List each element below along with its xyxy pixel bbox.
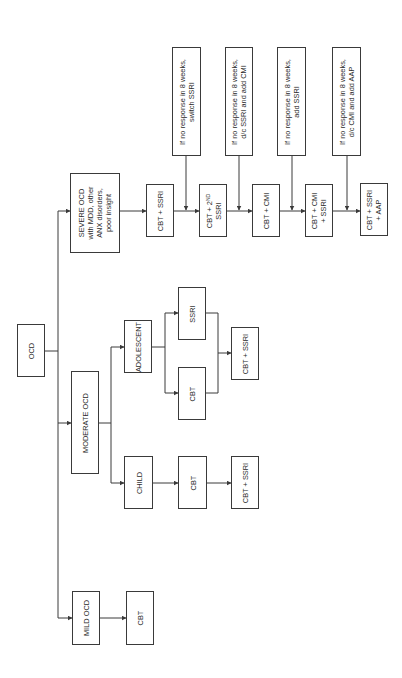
node-adolescent-ssri: SSRI: [178, 287, 206, 340]
node-mild-ocd-label: MILD OCD: [82, 600, 91, 636]
note-dc-ssri-add-cmi: If no response in 8 weeks, d/c SSRI and …: [225, 47, 253, 156]
node-mild-cbt-label: CBT: [136, 611, 145, 626]
node-adolescent-cbt: CBT: [178, 367, 206, 420]
node-adolescent: ADOLESCENT: [124, 320, 152, 373]
node-ocd: OCD: [17, 324, 45, 377]
node-moderate-ocd: MODERATE OCD: [71, 371, 99, 474]
node-severe-step-3: CBT + CMI: [252, 184, 280, 237]
note-switch-ssri-label: If no response in 8 weeks, switch SSRI: [178, 59, 196, 145]
node-severe-step-4: CBT + CMI + SSRI: [305, 184, 333, 237]
note-dc-cmi-add-aap: If no response in 8 weeks, d/c CMI and a…: [332, 47, 361, 156]
node-child: CHILD: [124, 456, 153, 509]
note-dc-cmi-add-aap-label: If no response in 8 weeks, d/c CMI and a…: [338, 59, 356, 145]
node-child-cbt-ssri-label: CBT + SSRI: [241, 462, 250, 502]
node-mild-cbt: CBT: [126, 591, 154, 645]
node-adolescent-label: ADOLESCENT: [134, 321, 143, 371]
note-switch-ssri: If no response in 8 weeks, switch SSRI: [172, 47, 201, 156]
node-child-cbt-ssri: CBT + SSRI: [231, 456, 259, 509]
node-child-cbt: CBT: [178, 456, 207, 509]
node-severe-step-1: CBT + SSRI: [146, 184, 174, 237]
node-severe-step-2: CBT + 2ND SSRI: [199, 184, 227, 237]
node-moderate-ocd-label: MODERATE OCD: [81, 393, 90, 453]
node-child-cbt-label: CBT: [188, 475, 197, 490]
node-severe-step-3-label: CBT + CMI: [262, 192, 271, 229]
node-adolescent-cbt-ssri-label: CBT + SSRI: [241, 333, 250, 373]
note-add-ssri: If no response in 8 weeks, add SSRI: [277, 47, 306, 156]
node-ocd-label: OCD: [27, 342, 36, 358]
node-adolescent-ssri-label: SSRI: [188, 305, 197, 322]
node-severe-step-4-label: CBT + CMI + SSRI: [310, 192, 328, 229]
note-add-ssri-label: If no response in 8 weeks, add SSRI: [283, 59, 301, 145]
node-severe-step-5-label: CBT + SSRI + AAP: [365, 189, 383, 229]
node-severe-ocd-label: SEVERE OCD with MDD, other ANX disorders…: [77, 187, 113, 240]
ocd-treatment-flowchart: OCD SEVERE OCD with MDD, other ANX disor…: [0, 0, 402, 678]
node-severe-step-1-label: CBT + SSRI: [156, 190, 165, 230]
note-dc-ssri-add-cmi-label: If no response in 8 weeks, d/c SSRI and …: [230, 59, 248, 145]
node-mild-ocd: MILD OCD: [72, 591, 100, 645]
node-child-label: CHILD: [134, 471, 143, 493]
node-adolescent-cbt-label: CBT: [188, 386, 197, 401]
node-severe-step-2-label: CBT + 2ND SSRI: [204, 193, 223, 227]
node-severe-step-5: CBT + SSRI + AAP: [360, 183, 388, 236]
node-adolescent-cbt-ssri: CBT + SSRI: [231, 327, 259, 380]
node-severe-ocd: SEVERE OCD with MDD, other ANX disorders…: [70, 173, 120, 253]
